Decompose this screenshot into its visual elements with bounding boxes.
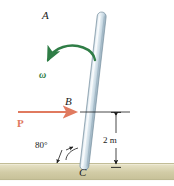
angle-indicator-80 [57, 147, 78, 163]
angular-velocity-arc [48, 46, 95, 60]
rod-mechanics-figure: A B C ω P 80° 2 m [0, 0, 174, 186]
figure-vector-layer [0, 0, 174, 186]
label-angle-80: 80° [35, 141, 48, 150]
label-angular-velocity: ω [39, 70, 46, 80]
label-point-b: B [65, 96, 72, 107]
label-point-a: A [42, 10, 49, 21]
rod-ac [79, 12, 106, 171]
label-dimension-2m: 2 m [103, 136, 117, 145]
label-point-c: C [79, 167, 86, 178]
label-force-p: P [17, 118, 24, 129]
